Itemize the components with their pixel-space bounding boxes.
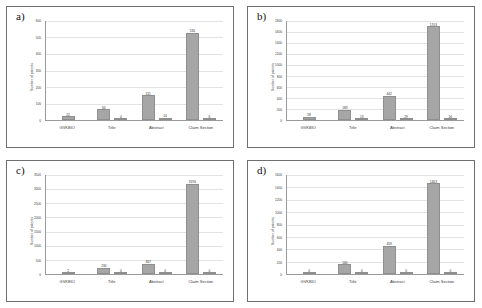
bar-secondary: 0 bbox=[159, 272, 172, 274]
bar-primary: 1463 bbox=[427, 183, 440, 274]
bar-primary: 183 bbox=[338, 110, 351, 120]
x-tick-label: Claim Section bbox=[420, 123, 465, 135]
y-tick-label: 1200 bbox=[275, 198, 282, 202]
y-tick-label: 800 bbox=[277, 223, 282, 227]
x-tick-label: GVKBIO bbox=[45, 277, 90, 289]
bar-value-label: 0 bbox=[164, 269, 166, 273]
bar-group: 58 bbox=[287, 21, 331, 120]
y-tick-label: 3500 bbox=[34, 173, 41, 177]
x-tick-label: Claim Section bbox=[179, 123, 224, 135]
bar-group: 170316 bbox=[420, 21, 464, 120]
bar-group: 3670 bbox=[135, 175, 179, 274]
bar-group: 4590 bbox=[376, 175, 420, 274]
x-tick-label: Abstract bbox=[375, 123, 420, 135]
y-tick-label: 200 bbox=[277, 261, 282, 265]
bar-secondary: 6 bbox=[203, 118, 216, 120]
y-tick-label: 0 bbox=[280, 273, 282, 277]
figure-grid: a)Number of patents010020030040050060022… bbox=[0, 0, 482, 308]
plot-area: 581831344229170316 bbox=[286, 21, 464, 121]
x-axis-labels: GVKBIOTitleAbstractClaim Section bbox=[45, 277, 223, 289]
bar-value-label: 0 bbox=[449, 269, 451, 273]
bars-container: 22300367031960 bbox=[46, 175, 223, 274]
bar-secondary: 0 bbox=[444, 272, 457, 274]
bar-value-label: 183 bbox=[342, 106, 347, 110]
y-tick-label: 0 bbox=[39, 119, 41, 123]
bar-secondary: 0 bbox=[203, 272, 216, 274]
y-tick-label: 1000 bbox=[275, 211, 282, 215]
bar-secondary: 0 bbox=[355, 272, 368, 274]
y-tick-label: 1800 bbox=[275, 19, 282, 23]
plot-wrapper: Number of patents01002003004005006002264… bbox=[7, 7, 233, 147]
y-axis-ticks: 02004006008001000120014001600 bbox=[266, 175, 284, 275]
bar-value-label: 22 bbox=[66, 113, 70, 117]
y-tick-label: 400 bbox=[277, 97, 282, 101]
bars-container: 01600459014630 bbox=[287, 175, 464, 274]
bar-value-label: 151 bbox=[145, 92, 150, 96]
bar-value-label: 230 bbox=[101, 264, 106, 268]
bar-value-label: 0 bbox=[120, 269, 122, 273]
y-axis-ticks: 0500100015002000250030003500 bbox=[25, 175, 43, 275]
bar-primary: 530 bbox=[186, 33, 199, 120]
x-tick-label: Claim Section bbox=[179, 277, 224, 289]
bar-value-label: 16 bbox=[449, 115, 453, 119]
y-tick-label: 500 bbox=[36, 259, 41, 263]
y-axis-ticks: 020040060080010001200140016001800 bbox=[266, 21, 284, 121]
x-tick-label: Claim Section bbox=[420, 277, 465, 289]
x-tick-label: Abstract bbox=[134, 277, 179, 289]
panel-cell-0: a)Number of patents010020030040050060022… bbox=[0, 0, 241, 154]
bar-value-label: 0 bbox=[361, 269, 363, 273]
bar-primary: 22 bbox=[62, 116, 75, 120]
bar-primary: 0 bbox=[303, 272, 316, 274]
plot-wrapper: Number of patents02004006008001000120014… bbox=[248, 7, 474, 147]
bar-value-label: 0 bbox=[405, 269, 407, 273]
bars-container: 581831344229170316 bbox=[287, 21, 464, 120]
bar-secondary: 4 bbox=[114, 118, 127, 120]
y-tick-label: 200 bbox=[36, 86, 41, 90]
bar-primary: 367 bbox=[142, 264, 155, 274]
y-tick-label: 1600 bbox=[275, 30, 282, 34]
plot-wrapper: Number of patents05001000150020002500300… bbox=[7, 161, 233, 301]
chart-panel-d: d)Number of patents020040060080010001200… bbox=[247, 160, 475, 302]
bar-group: 2300 bbox=[90, 175, 134, 274]
bar-group: 22 bbox=[46, 21, 90, 120]
plot-area: 22644151145306 bbox=[45, 21, 223, 121]
bar-group: 1600 bbox=[331, 175, 375, 274]
bar-value-label: 0 bbox=[308, 269, 310, 273]
y-tick-label: 1400 bbox=[275, 41, 282, 45]
y-tick-label: 2500 bbox=[34, 202, 41, 206]
bar-value-label: 14 bbox=[163, 114, 167, 118]
panel-cell-2: c)Number of patents050010001500200025003… bbox=[0, 154, 241, 308]
bar-primary: 3196 bbox=[186, 184, 199, 274]
panel-cell-3: d)Number of patents020040060080010001200… bbox=[241, 154, 482, 308]
bar-value-label: 0 bbox=[208, 269, 210, 273]
y-tick-label: 2000 bbox=[34, 216, 41, 220]
bar-group: 644 bbox=[90, 21, 134, 120]
bar-primary: 230 bbox=[97, 268, 110, 275]
y-tick-label: 400 bbox=[277, 248, 282, 252]
plot-area: 22300367031960 bbox=[45, 175, 223, 275]
y-tick-label: 600 bbox=[277, 236, 282, 240]
chart-panel-c: c)Number of patents050010001500200025003… bbox=[6, 160, 234, 302]
y-tick-label: 1000 bbox=[275, 63, 282, 67]
y-tick-label: 1000 bbox=[34, 244, 41, 248]
bar-primary: 64 bbox=[97, 109, 110, 120]
bar-group: 14630 bbox=[420, 175, 464, 274]
bar-group: 18313 bbox=[331, 21, 375, 120]
y-tick-label: 800 bbox=[277, 75, 282, 79]
x-tick-label: Title bbox=[90, 277, 135, 289]
y-tick-label: 1200 bbox=[275, 52, 282, 56]
y-tick-label: 1500 bbox=[34, 230, 41, 234]
y-tick-label: 400 bbox=[36, 52, 41, 56]
y-axis-ticks: 0100200300400500600 bbox=[25, 21, 43, 121]
bar-primary: 58 bbox=[303, 117, 316, 120]
bar-secondary: 0 bbox=[400, 272, 413, 274]
y-tick-label: 600 bbox=[277, 86, 282, 90]
bar-group: 31960 bbox=[179, 175, 223, 274]
bar-value-label: 58 bbox=[307, 113, 311, 117]
bar-primary: 1703 bbox=[427, 26, 440, 120]
bar-value-label: 367 bbox=[145, 260, 150, 264]
bar-secondary: 16 bbox=[444, 118, 457, 120]
bar-value-label: 29 bbox=[404, 115, 408, 119]
y-tick-label: 200 bbox=[277, 108, 282, 112]
bar-primary: 2 bbox=[62, 272, 75, 274]
